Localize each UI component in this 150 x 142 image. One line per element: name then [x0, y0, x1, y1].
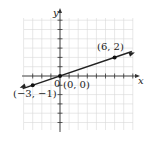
point-label-6-2: (6, 2) [97, 41, 124, 52]
y-axis-label: y [52, 7, 59, 18]
axes [22, 11, 137, 132]
point-label-origin: (0, 0) [63, 79, 90, 90]
point-label-neg3-neg1: (−3, −1) [13, 88, 57, 99]
x-axis-label: x [138, 75, 144, 86]
line-arrowhead-right [128, 52, 134, 57]
axis-ticks [33, 20, 133, 122]
point-6-2 [113, 55, 117, 59]
point-neg3-neg1 [31, 83, 35, 87]
coordinate-plane: x y 0 (−3, −1) (0, 0) (6, 2) [0, 0, 150, 142]
